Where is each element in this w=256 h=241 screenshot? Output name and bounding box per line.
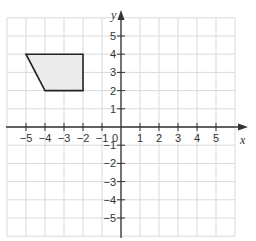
axes: x y 0 [6,8,248,238]
y-tick-label: −3 [103,176,116,188]
x-tick-label: −5 [20,132,33,144]
x-tick-label: 5 [213,132,219,144]
y-tick-label: 3 [110,66,116,78]
coordinate-plane: x y 0 −5−4−3−2−112345−5−4−3−2−112345 [0,0,256,241]
y-tick-label: −5 [103,212,116,224]
x-axis-label: x [239,133,246,147]
y-tick-label: 5 [110,30,116,42]
y-tick-label: −4 [103,194,116,206]
x-tick-label: −4 [39,132,52,144]
x-tick-label: 2 [156,132,162,144]
y-tick-label: −1 [103,139,116,151]
y-tick-label: 1 [110,103,116,115]
x-tick-label: −2 [77,132,90,144]
x-axis-arrow-icon [238,124,248,131]
x-tick-label: −3 [58,132,71,144]
y-tick-label: 4 [110,48,116,60]
x-tick-label: 4 [194,132,200,144]
y-axis-arrow-icon [118,10,125,20]
x-tick-label: 1 [137,132,143,144]
y-tick-label: −2 [103,157,116,169]
y-tick-label: 2 [110,85,116,97]
y-axis-label: y [110,8,117,22]
x-tick-label: 3 [175,132,181,144]
